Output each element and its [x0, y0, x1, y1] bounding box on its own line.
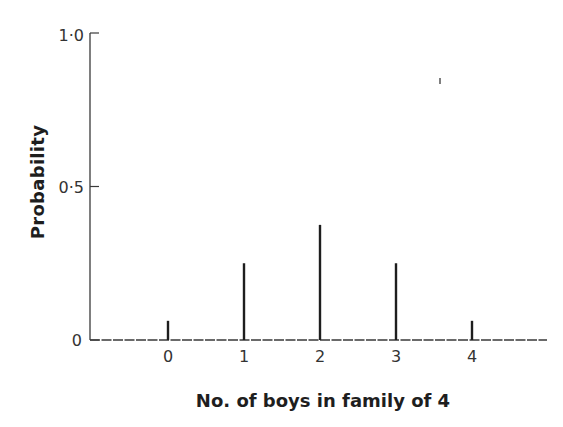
x-tick-label-4: 4	[467, 347, 477, 366]
y-tick-label-0.5: 0·5	[59, 178, 84, 197]
y-tick-label-0: 0	[72, 331, 82, 350]
x-tick-label-1: 1	[239, 347, 249, 366]
x-tick-label-2: 2	[315, 347, 325, 366]
x-axis-label: No. of boys in family of 4	[196, 390, 450, 411]
axes	[90, 33, 547, 340]
stems	[168, 225, 472, 340]
x-tick-label-3: 3	[391, 347, 401, 366]
y-axis-label: Probability	[27, 125, 48, 240]
x-tick-label-0: 0	[163, 347, 173, 366]
y-tick-label-1: 1·0	[59, 26, 84, 45]
chart-canvas	[0, 0, 563, 427]
